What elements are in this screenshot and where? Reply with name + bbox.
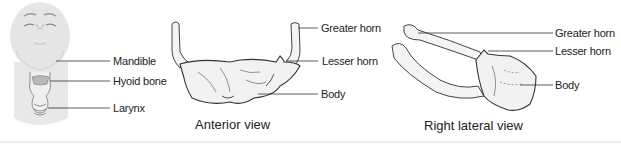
caption-right-lateral-view: Right lateral view [424, 118, 523, 133]
bottom-divider [0, 141, 621, 143]
label-body-lateral: Body [555, 79, 579, 91]
label-lesser-horn-lateral: Lesser horn [555, 45, 611, 57]
anterior-view-panel: Greater horn Lesser horn Body Anterior v… [150, 0, 370, 146]
label-body-anterior: Body [321, 88, 345, 100]
label-larynx: Larynx [113, 102, 145, 114]
lateral-view-panel: Greater horn Lesser horn Body Right late… [360, 0, 621, 146]
head-neck-illustration [0, 0, 160, 146]
head-neck-panel: Mandible Hyoid bone Larynx [0, 0, 160, 146]
label-greater-horn-lateral: Greater horn [555, 27, 615, 39]
caption-anterior-view: Anterior view [195, 117, 270, 132]
